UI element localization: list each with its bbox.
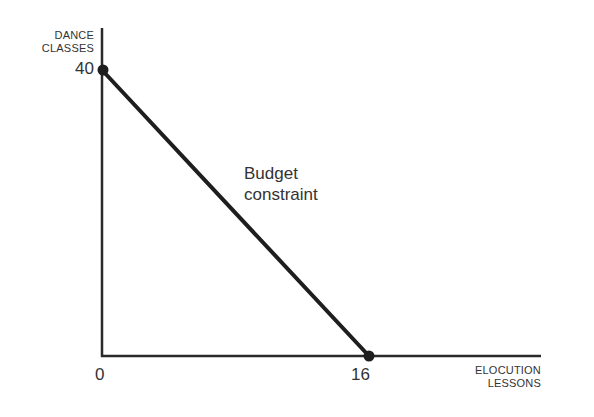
annotation-line1: Budget [244,163,318,184]
x-intercept-point [364,351,375,362]
y-axis-label-line2: CLASSES [30,42,94,55]
budget-constraint-line [102,70,369,356]
annotation-line2: constraint [244,184,318,205]
x-tick-0: 0 [95,365,104,385]
x-axis-label: ELOCUTION LESSONS [460,364,541,390]
x-axis-label-line1: ELOCUTION [460,364,541,377]
x-axis-label-line2: LESSONS [460,377,541,390]
y-axis-label: DANCE CLASSES [30,29,94,55]
y-axis-label-line1: DANCE [30,29,94,42]
y-intercept-point [98,65,109,76]
budget-constraint-annotation: Budget constraint [244,163,318,205]
x-tick-16: 16 [351,365,370,385]
y-tick-40: 40 [66,59,94,79]
